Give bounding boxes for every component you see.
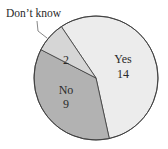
slice-value-yes: 14 — [117, 67, 129, 81]
slice-value-dont-know: 2 — [63, 53, 69, 67]
slice-label-yes: Yes — [114, 52, 132, 66]
slice-label-no: No — [59, 83, 74, 97]
callout-label-dont-know: Don’t know — [6, 7, 62, 19]
pie-chart: Don’t know 2 Yes 14 No 9 — [0, 0, 168, 149]
callout-leader-line — [37, 21, 47, 38]
slice-value-no: 9 — [63, 97, 69, 111]
pie-slices — [34, 16, 158, 140]
